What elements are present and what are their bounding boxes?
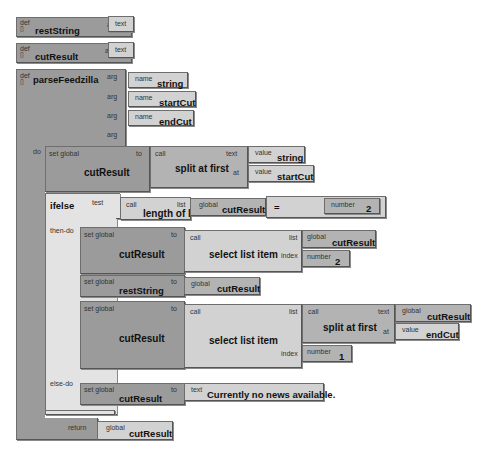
else-do-label: else-do bbox=[50, 380, 73, 387]
call-select-block[interactable]: call select list item list index bbox=[184, 304, 302, 368]
number-value: 2 bbox=[335, 256, 340, 267]
call-label: call bbox=[126, 201, 137, 208]
text-literal-block[interactable]: text Currently no news available. bbox=[184, 383, 324, 401]
kind-label: value bbox=[402, 326, 419, 333]
value-name: string bbox=[277, 152, 303, 163]
list-label: list bbox=[289, 234, 298, 241]
type-label: text bbox=[115, 46, 126, 53]
to-label: to bbox=[171, 278, 177, 285]
test-label: test bbox=[92, 199, 103, 206]
number-block[interactable]: number 1 bbox=[302, 345, 352, 362]
kind-label: global bbox=[191, 280, 210, 287]
kind-label: value bbox=[255, 149, 272, 156]
value-name: cutResult bbox=[222, 204, 265, 215]
number-block[interactable]: number 2 bbox=[302, 250, 350, 267]
value-block[interactable]: value string bbox=[248, 146, 305, 163]
set-global-block[interactable]: set global to restString bbox=[80, 275, 185, 297]
text-type-block[interactable]: text bbox=[108, 42, 134, 58]
procedure-block[interactable]: def▯ parseFeedzilla arg arg arg arg bbox=[16, 69, 126, 147]
then-do-label: then-do bbox=[50, 227, 74, 234]
number-value: 1 bbox=[339, 351, 344, 362]
variable-name: restString bbox=[119, 285, 164, 296]
set-global-label: set global bbox=[84, 305, 114, 312]
set-global-label: set global bbox=[84, 231, 114, 238]
name-label: name bbox=[135, 94, 153, 101]
global-name: cutResult bbox=[35, 51, 78, 62]
value-block[interactable]: value endCut bbox=[395, 323, 459, 340]
global-ref-block[interactable]: global cutResult bbox=[302, 230, 376, 248]
call-split-block[interactable]: call split at first text at bbox=[302, 304, 395, 343]
text-label: text bbox=[378, 308, 389, 315]
set-global-block[interactable]: set global to cutResult bbox=[45, 146, 150, 192]
value-block[interactable]: value startCut bbox=[248, 165, 314, 182]
operator-label: = bbox=[274, 202, 280, 213]
variable-name: cutResult bbox=[119, 249, 165, 260]
global-ref-block[interactable]: global cutResult bbox=[97, 421, 173, 440]
kind-label: text bbox=[191, 386, 202, 393]
ifelse-label: ifelse bbox=[50, 200, 74, 211]
to-label: to bbox=[171, 386, 177, 393]
kind-label: number bbox=[331, 201, 355, 208]
kind-label: global bbox=[199, 201, 218, 208]
index-label: index bbox=[281, 252, 298, 259]
def-icon: def▯ bbox=[20, 20, 30, 32]
text-value: Currently no news available. bbox=[207, 389, 335, 400]
call-label: call bbox=[190, 308, 201, 315]
kind-label: number bbox=[307, 348, 331, 355]
arg-name: startCut bbox=[159, 97, 195, 108]
global-ref-block[interactable]: global cutResult bbox=[184, 277, 260, 295]
kind-label: global bbox=[307, 233, 326, 240]
arg-name-block[interactable]: name startCut bbox=[128, 91, 196, 107]
procedure-name: parseFeedzilla bbox=[33, 74, 98, 85]
function-name: select list item bbox=[209, 335, 278, 346]
kind-label: global bbox=[402, 307, 421, 314]
global-name: restString bbox=[35, 25, 80, 36]
set-global-block[interactable]: set global to cutResult bbox=[80, 301, 185, 369]
call-length-block[interactable]: call length of list list bbox=[120, 197, 191, 220]
name-label: name bbox=[135, 75, 153, 82]
call-label: call bbox=[190, 234, 201, 241]
set-global-label: set global bbox=[84, 386, 114, 393]
value-name: startCut bbox=[277, 171, 313, 182]
type-label: text bbox=[115, 20, 126, 27]
arg-name-block[interactable]: name string bbox=[128, 72, 188, 88]
arg-label: arg bbox=[107, 131, 117, 138]
call-label: call bbox=[155, 150, 166, 157]
arg-label: arg bbox=[107, 112, 117, 119]
call-split-block[interactable]: call split at first text at bbox=[150, 146, 248, 188]
list-label: list bbox=[177, 201, 186, 208]
def-icon: def▯ bbox=[20, 46, 30, 58]
text-label: text bbox=[226, 150, 237, 157]
global-ref-block[interactable]: global cutResult bbox=[395, 304, 471, 322]
call-label: call bbox=[308, 308, 319, 315]
function-name: split at first bbox=[323, 322, 377, 333]
set-global-block[interactable]: set global to cutResult bbox=[80, 227, 185, 274]
return-block[interactable]: return bbox=[16, 418, 98, 440]
name-label: name bbox=[135, 113, 153, 120]
arg-label: arg bbox=[107, 73, 117, 80]
variable-name: cutResult bbox=[119, 393, 162, 404]
value-name: endCut bbox=[426, 329, 459, 340]
return-label: return bbox=[68, 424, 86, 431]
set-global-label: set global bbox=[84, 278, 114, 285]
index-label: index bbox=[281, 350, 298, 357]
ifelse-bottom-cap bbox=[45, 410, 115, 415]
list-label: list bbox=[289, 308, 298, 315]
number-value: 2 bbox=[366, 203, 371, 214]
arg-name-block[interactable]: name endCut bbox=[128, 110, 194, 126]
global-ref-block[interactable]: global cutResult bbox=[190, 198, 266, 216]
kind-label: value bbox=[255, 168, 272, 175]
text-type-block[interactable]: text bbox=[108, 16, 134, 32]
set-global-label: set global bbox=[49, 150, 79, 157]
call-select-block[interactable]: call select list item list index bbox=[184, 230, 302, 272]
to-label: to bbox=[136, 150, 142, 157]
number-block[interactable]: number 2 bbox=[324, 198, 380, 214]
function-name: select list item bbox=[209, 249, 278, 260]
at-label: at bbox=[383, 328, 389, 335]
at-label: at bbox=[233, 169, 239, 176]
value-name: cutResult bbox=[332, 237, 375, 248]
set-global-block[interactable]: set global to cutResult bbox=[80, 383, 185, 405]
kind-label: global bbox=[106, 424, 125, 431]
arg-name: string bbox=[157, 78, 183, 89]
variable-name: cutResult bbox=[119, 333, 165, 344]
